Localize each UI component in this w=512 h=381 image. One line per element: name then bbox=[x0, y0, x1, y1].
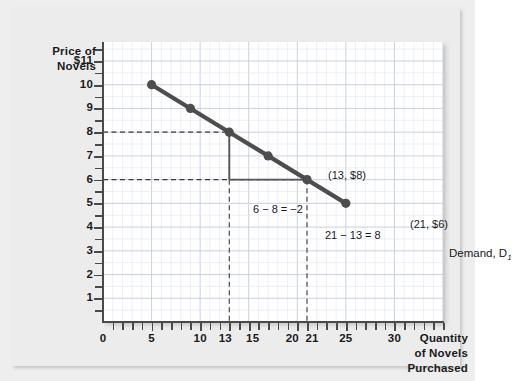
x-tick-minor bbox=[433, 323, 435, 330]
x-tick-major bbox=[346, 323, 348, 331]
x-tick-minor bbox=[220, 323, 222, 330]
x-tick-major bbox=[229, 323, 231, 331]
y-tick-label: 4 bbox=[86, 220, 93, 232]
x-tick-minor bbox=[375, 323, 377, 330]
y-tick-label: 5 bbox=[86, 196, 93, 208]
x-tick-label: 10 bbox=[186, 332, 214, 344]
x-axis-title-line2: of Novels bbox=[390, 346, 468, 361]
x-tick-minor bbox=[181, 323, 183, 330]
x-tick-major bbox=[394, 323, 396, 331]
x-tick-minor bbox=[288, 323, 290, 330]
y-tick-major bbox=[94, 203, 102, 205]
y-tick-label: 7 bbox=[86, 149, 93, 161]
x-tick-minor bbox=[278, 323, 280, 330]
data-point-marker bbox=[225, 128, 234, 137]
x-tick-minor bbox=[336, 323, 338, 330]
x-tick-minor bbox=[132, 323, 134, 330]
x-tick-minor bbox=[210, 323, 212, 330]
x-tick-major bbox=[152, 323, 154, 331]
y-tick-minor bbox=[95, 191, 102, 193]
x-axis-title-line1: Quantity bbox=[390, 331, 468, 346]
x-tick-minor bbox=[122, 323, 124, 330]
x-tick-label: 21 bbox=[298, 332, 326, 344]
x-tick-minor bbox=[268, 323, 270, 330]
y-tick-minor bbox=[95, 120, 102, 122]
y-axis-title: Price of Novels bbox=[34, 44, 96, 73]
x-tick-major bbox=[200, 323, 202, 331]
annotation-point-a: (13, $8) bbox=[328, 169, 366, 181]
y-tick-label: 2 bbox=[86, 268, 93, 280]
data-point-marker bbox=[264, 151, 273, 160]
x-tick-label: 13 bbox=[211, 332, 239, 344]
x-tick-label: 25 bbox=[332, 332, 360, 344]
x-tick-minor bbox=[171, 323, 173, 330]
demand-text: Demand, D bbox=[449, 247, 507, 259]
x-tick-label: 0 bbox=[89, 332, 117, 344]
x-tick-minor bbox=[365, 323, 367, 330]
y-axis-title-line1: Price of bbox=[34, 44, 96, 59]
y-tick-label: 6 bbox=[86, 173, 93, 185]
annotation-demand-curve-label: Demand, D1 bbox=[449, 247, 512, 262]
y-tick-minor bbox=[95, 215, 102, 217]
x-tick-label: 15 bbox=[239, 332, 267, 344]
data-layer bbox=[103, 42, 443, 322]
y-tick-label: 10 bbox=[80, 78, 93, 90]
x-tick-minor bbox=[385, 323, 387, 330]
y-tick-major bbox=[94, 108, 102, 110]
y-tick-minor bbox=[95, 310, 102, 312]
x-tick-minor bbox=[326, 323, 328, 330]
plot-area: (13, $8) (21, $6) 6 − 8 = −2 21 − 13 = 8… bbox=[103, 42, 443, 322]
x-tick-minor bbox=[258, 323, 260, 330]
y-tick-minor bbox=[95, 49, 102, 51]
x-tick-minor bbox=[424, 323, 426, 330]
demand-subscript: 1 bbox=[507, 253, 511, 262]
data-point-marker bbox=[147, 80, 156, 89]
x-tick-label: 5 bbox=[138, 332, 166, 344]
data-point-marker bbox=[186, 104, 195, 113]
y-tick-major bbox=[94, 156, 102, 158]
x-tick-minor bbox=[113, 323, 115, 330]
y-tick-minor bbox=[95, 239, 102, 241]
x-tick-minor bbox=[317, 323, 319, 330]
y-tick-minor bbox=[95, 168, 102, 170]
data-point-marker bbox=[302, 175, 311, 184]
y-tick-minor bbox=[95, 286, 102, 288]
y-tick-major bbox=[94, 251, 102, 253]
x-tick-major bbox=[297, 323, 299, 331]
y-tick-minor bbox=[95, 144, 102, 146]
y-axis-title-line2: Novels bbox=[34, 59, 96, 74]
x-tick-major bbox=[249, 323, 251, 331]
y-tick-major bbox=[94, 132, 102, 134]
demand-curve-line bbox=[152, 85, 346, 204]
y-tick-label: 8 bbox=[86, 125, 93, 137]
x-tick-minor bbox=[414, 323, 416, 330]
x-tick-minor bbox=[443, 323, 445, 330]
x-axis-title: Quantity of Novels Purchased bbox=[390, 331, 468, 376]
data-point-marker bbox=[341, 199, 350, 208]
x-tick-minor bbox=[239, 323, 241, 330]
x-tick-minor bbox=[190, 323, 192, 330]
y-tick-major bbox=[94, 275, 102, 277]
x-tick-minor bbox=[404, 323, 406, 330]
x-tick-minor bbox=[142, 323, 144, 330]
y-tick-minor bbox=[95, 97, 102, 99]
y-tick-major bbox=[94, 298, 102, 300]
y-tick-major bbox=[94, 227, 102, 229]
y-tick-label: 3 bbox=[86, 244, 93, 256]
annotation-point-b: (21, $6) bbox=[410, 218, 448, 230]
y-tick-label: 1 bbox=[86, 291, 93, 303]
y-tick-label: 9 bbox=[86, 101, 93, 113]
y-axis-line bbox=[102, 42, 104, 323]
y-tick-major bbox=[94, 85, 102, 87]
x-tick-minor bbox=[356, 323, 358, 330]
annotation-rise: 6 − 8 = −2 bbox=[253, 203, 303, 215]
y-tick-minor bbox=[95, 263, 102, 265]
y-tick-minor bbox=[95, 73, 102, 75]
y-tick-major bbox=[94, 180, 102, 182]
x-tick-major bbox=[307, 323, 309, 331]
x-tick-minor bbox=[161, 323, 163, 330]
x-axis-title-line3: Purchased bbox=[390, 361, 468, 376]
annotation-run: 21 − 13 = 8 bbox=[325, 229, 381, 241]
